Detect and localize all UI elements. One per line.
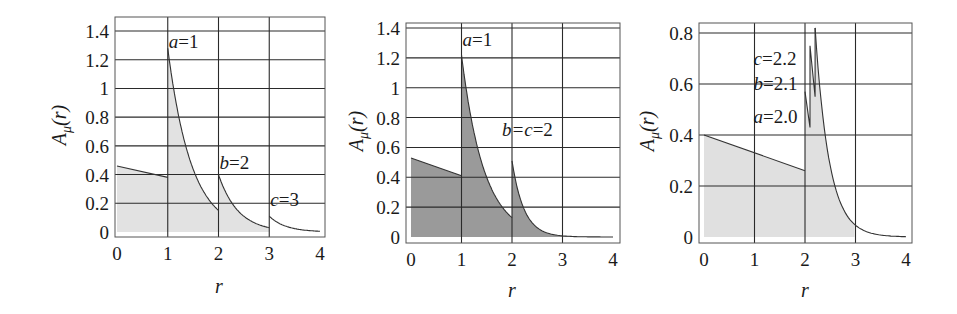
y-tick-label: 0.2	[85, 193, 109, 214]
x-tick-label: 4	[315, 243, 325, 264]
x-tick-label: 2	[214, 243, 224, 264]
y-tick-label: 0	[684, 227, 694, 248]
area-fill	[117, 48, 269, 232]
y-tick-label: 1	[100, 78, 110, 99]
y-axis-label: Aμ(r)	[345, 110, 371, 153]
y-tick-label: 0.8	[85, 107, 109, 128]
x-tick-label: 1	[163, 243, 173, 264]
y-tick-label: 0.4	[85, 165, 109, 186]
y-tick-label: 1.4	[376, 18, 400, 39]
annotation-c-2-2: c=2.2	[753, 48, 796, 69]
curve-segment-4	[269, 216, 320, 231]
annotation-a-1: a=1	[463, 29, 493, 50]
y-tick-label: 0.2	[376, 197, 400, 218]
y-tick-label: 0.6	[85, 136, 109, 157]
x-tick-label: 1	[457, 249, 467, 270]
annotation-b-2: b=2	[220, 152, 250, 173]
chart-panel-1: 0123400.20.40.60.811.21.4a=1b=2c=3rAμ(r)	[48, 17, 325, 297]
y-tick-label: 1.2	[85, 50, 109, 71]
annotation-c-3: c=3	[270, 189, 299, 210]
annotation-b-2-1: b=2.1	[753, 73, 797, 94]
chart-panel-2: 0123400.20.40.60.811.21.4a=1b=c=2rAμ(r)	[345, 18, 620, 301]
x-tick-label: 0	[699, 249, 709, 270]
x-tick-label: 4	[901, 249, 911, 270]
x-tick-label: 0	[406, 249, 416, 270]
x-tick-label: 3	[558, 249, 568, 270]
x-tick-label: 2	[800, 249, 810, 270]
x-tick-label: 2	[507, 249, 517, 270]
x-tick-label: 0	[112, 243, 122, 264]
x-axis-label: r	[508, 279, 516, 301]
y-tick-label: 1.2	[376, 48, 400, 69]
y-tick-label: 0.6	[669, 74, 693, 95]
y-tick-label: 1.4	[85, 21, 109, 42]
chart-panel-3: 0123400.20.40.60.8c=2.2b=2.1a=2.0rAμ(r)	[636, 23, 912, 301]
annotation-a-2-0: a=2.0	[753, 106, 797, 127]
y-axis-label: Aμ(r)	[48, 104, 74, 147]
y-axis-label: Aμ(r)	[636, 110, 662, 153]
annotation-a-1: a=1	[169, 31, 199, 52]
y-tick-label: 0.4	[669, 125, 693, 146]
figure-canvas: 0123400.20.40.60.811.21.4a=1b=2c=3rAμ(r)…	[0, 0, 957, 314]
y-tick-label: 0	[391, 227, 401, 248]
x-tick-label: 3	[265, 243, 275, 264]
y-tick-label: 1	[391, 78, 401, 99]
y-tick-label: 0.2	[669, 176, 693, 197]
y-tick-label: 0.4	[376, 167, 400, 188]
x-axis-label: r	[801, 279, 809, 301]
y-tick-label: 0.6	[376, 137, 400, 158]
y-tick-label: 0.8	[376, 108, 400, 129]
x-axis-label: r	[215, 275, 223, 297]
x-tick-label: 1	[750, 249, 760, 270]
annotation-b-c-2: b=c=2	[502, 119, 553, 140]
x-tick-label: 3	[851, 249, 861, 270]
y-tick-label: 0	[100, 222, 110, 243]
x-tick-label: 4	[608, 249, 618, 270]
y-tick-label: 0.8	[669, 23, 693, 44]
